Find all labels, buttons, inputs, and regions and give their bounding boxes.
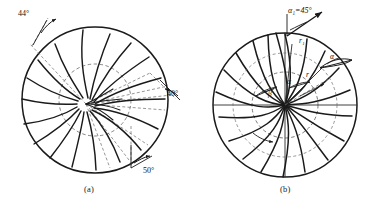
panel-b-r-label: r [306, 70, 309, 79]
figure-canvas [0, 0, 367, 205]
panel-a-angle-40-label: 40° [167, 89, 178, 98]
panel-b-alpha1-label: α₁=45° [288, 6, 312, 15]
panel-a-construction-lines [30, 44, 172, 168]
panel-b-beta-label: β [268, 89, 272, 98]
panel-b-alpha-outer-wedge [320, 58, 352, 68]
panel-b-group [213, 12, 357, 177]
panel-a-group [22, 18, 180, 173]
panel-a-angle-50-label: 50° [143, 166, 154, 175]
panel-b-caption: (b) [280, 184, 291, 194]
panel-b-alpha-outer-label: α [330, 52, 334, 61]
panel-b-alpha-mid-label: α [287, 77, 291, 86]
panel-b-alpha1-vector [287, 12, 322, 36]
panel-b-alpha-mid-wedge [289, 82, 310, 88]
panel-b-beta-wedge [256, 87, 277, 96]
panel-a-angle-44-label: 44° [18, 9, 29, 18]
panel-a-caption: (a) [84, 184, 94, 194]
figure-root: 44° 40° 50° α₁=45° r₁ r α α β (a) (b) [0, 0, 367, 205]
panel-b-r1-label: r₁ [299, 36, 305, 45]
